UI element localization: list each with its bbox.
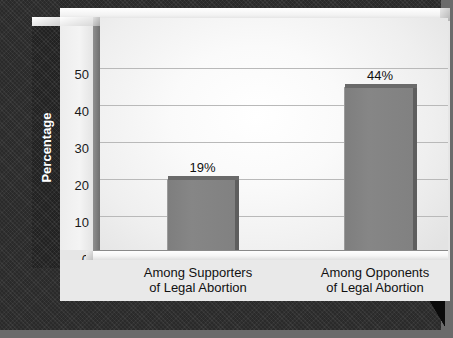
bar-top-bevel xyxy=(168,176,239,180)
bar-side-face xyxy=(235,180,239,250)
y-tick-label-40: 40 xyxy=(61,105,89,118)
y-axis-wall xyxy=(93,26,100,250)
plot-area: 19% 44% xyxy=(100,18,448,250)
category-label-opponents-line2: of Legal Abortion xyxy=(295,280,453,295)
bar-top-bevel xyxy=(345,84,417,88)
y-axis-title: Percentage xyxy=(32,26,60,268)
bar-value-label-supporters: 19% xyxy=(167,160,238,175)
axis-title-panel-bevel xyxy=(32,17,60,26)
y-tick-label-20: 20 xyxy=(61,179,89,192)
category-label-supporters-line2: of Legal Abortion xyxy=(118,280,278,295)
chart-plate: Percentage 50 40 30 20 10 0 xyxy=(30,8,440,303)
category-label-supporters: Among Supporters of Legal Abortion xyxy=(118,265,278,295)
category-label-opponents-line1: Among Opponents xyxy=(295,265,453,280)
y-axis-wall-bevel xyxy=(93,17,100,26)
y-axis-title-label: Percentage xyxy=(39,112,54,182)
category-label-supporters-line1: Among Supporters xyxy=(118,265,278,280)
category-label-opponents: Among Opponents of Legal Abortion xyxy=(295,265,453,295)
bar-value-label-opponents: 44% xyxy=(344,68,416,83)
bar-among-opponents[interactable] xyxy=(344,87,413,250)
tick-column-bevel xyxy=(60,17,93,26)
y-axis-tick-column: 50 40 30 20 10 0 xyxy=(60,26,93,250)
bar-among-supporters[interactable] xyxy=(167,179,235,250)
bar-side-face xyxy=(413,88,417,250)
bar-chart-figure: Percentage 50 40 30 20 10 0 xyxy=(0,0,453,338)
y-tick-label-50: 50 xyxy=(61,68,89,81)
y-tick-label-30: 30 xyxy=(61,142,89,155)
y-tick-label-10: 10 xyxy=(61,216,89,229)
category-label-strip: Among Supporters of Legal Abortion Among… xyxy=(60,260,450,301)
